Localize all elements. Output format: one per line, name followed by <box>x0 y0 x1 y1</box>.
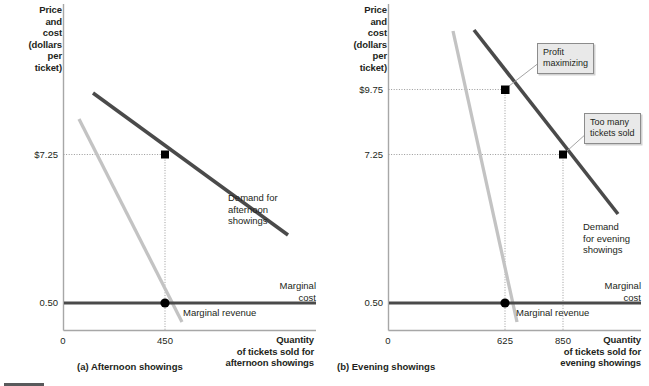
y-tick-label-a-0: $7.25 <box>0 150 58 160</box>
demand-curve-label-b: Demand for evening showings <box>583 221 630 256</box>
point-price-quantity-a <box>161 151 169 159</box>
point-too-many-tickets-b <box>559 151 567 159</box>
y-tick-label-b-0: $9.75 <box>325 85 383 95</box>
x-axis-title-a: Quantity of tickets sold for afternoon s… <box>190 334 314 369</box>
marginal-revenue-label-a: Marginal revenue <box>183 307 256 319</box>
y-tick-label-b-1: 7.25 <box>325 150 383 160</box>
panel-afternoon-showings: Price and cost (dollars per ticket) $7.2… <box>0 0 324 386</box>
marginal-revenue-label-b: Marginal revenue <box>516 307 589 319</box>
marginal-cost-label-b: Marginal cost <box>585 280 641 303</box>
plot-area-b <box>325 0 649 386</box>
x-tick-label-a-1: 450 <box>145 336 185 346</box>
x-tick-label-b-0: 0 <box>368 336 408 346</box>
y-tick-label-a-1: 0.50 <box>0 298 58 308</box>
marginal-cost-label-a: Marginal cost <box>260 280 316 303</box>
y-tick-label-b-2: 0.50 <box>325 298 383 308</box>
marginal-revenue-curve-a <box>79 119 182 322</box>
point-mr-equals-mc-a <box>160 298 169 307</box>
demand-curve-label-a: Demand for afternoon showings <box>228 192 278 227</box>
point-profit-maximizing-b <box>501 86 510 95</box>
callout-profit-maximizing: Profit maximizing <box>537 43 594 74</box>
callout-too-many-tickets: Too many tickets sold <box>584 113 641 144</box>
panel-caption-b: (b) Evening showings <box>337 361 435 372</box>
panel-evening-showings: Price and cost (dollars per ticket) $9.7… <box>325 0 649 386</box>
x-tick-label-a-0: 0 <box>43 336 83 346</box>
panel-caption-a: (a) Afternoon showings <box>77 361 183 372</box>
point-mr-equals-mc-b <box>500 298 509 307</box>
x-axis-title-b: Quantity of tickets sold for evening sho… <box>517 334 641 369</box>
callout-leader-profit-max <box>509 62 540 86</box>
